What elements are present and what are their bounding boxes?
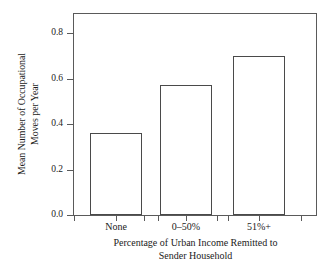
- y-axis-tick: [67, 170, 73, 171]
- y-axis-title-line-1: Mean Number of Occupational: [16, 13, 29, 215]
- y-axis-tick: [67, 79, 73, 80]
- x-axis-title-line-2: Sender Household: [60, 249, 331, 262]
- x-axis-title-line-1: Percentage of Urban Income Remitted to: [60, 236, 331, 249]
- y-axis-title-line-2: Moves per Year: [29, 13, 42, 215]
- y-axis-tick: [67, 33, 73, 34]
- bar-chart-figure: 0.00.20.40.60.8 None0–50%51%+ Mean Numbe…: [0, 0, 331, 273]
- y-axis-tick: [67, 124, 73, 125]
- x-axis-title: Percentage of Urban Income Remitted to S…: [60, 236, 331, 262]
- y-axis-title: Mean Number of Occupational Moves per Ye…: [16, 13, 46, 215]
- x-axis-line: [73, 215, 317, 216]
- bar-3: [233, 56, 285, 215]
- bar-2: [160, 85, 212, 215]
- x-axis-tick-label: 51%+: [214, 221, 304, 232]
- bar-1: [90, 133, 142, 215]
- y-axis-tick: [67, 215, 73, 216]
